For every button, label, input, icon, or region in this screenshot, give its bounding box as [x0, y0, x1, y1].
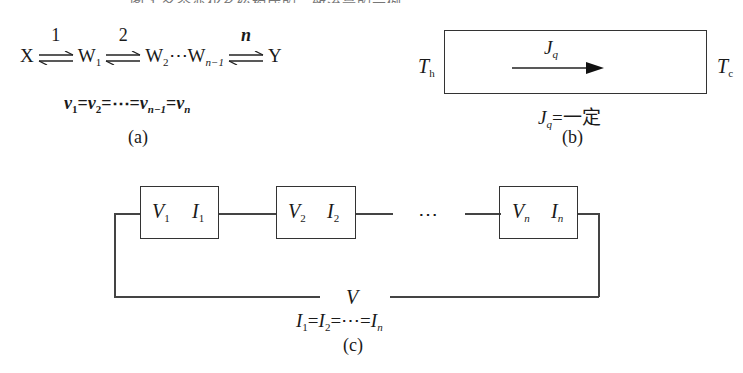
rate-equality: v1=v2=⋯=vn−1=vn — [64, 92, 190, 115]
equilibrium-arrow-2-icon: 2 — [104, 51, 142, 65]
element-2-current: I2 — [327, 200, 339, 224]
ellipsis: ⋯ — [169, 45, 188, 66]
series-ellipsis: ⋯ — [418, 202, 438, 226]
current-equality: I1=I2=⋯=In — [296, 309, 383, 333]
species-w1: W1 — [78, 45, 101, 66]
wire-dots-n — [465, 213, 501, 215]
caption-b: (b) — [562, 127, 583, 148]
wire-bottom-left — [114, 296, 320, 298]
wire-left-vertical — [114, 213, 116, 297]
element-n-voltage: Vn — [512, 200, 530, 224]
wire-right-stub — [577, 213, 599, 215]
element-1-current: I1 — [192, 200, 204, 224]
caption-a: (a) — [128, 127, 148, 148]
species-x: X — [20, 45, 34, 66]
flux-constant-condition: Jq=一定 — [538, 102, 601, 130]
wire-left-stub — [114, 213, 141, 215]
species-y: Y — [268, 45, 282, 66]
wire-1-2 — [218, 213, 277, 215]
species-wn-1: Wn−1 — [188, 45, 224, 66]
species-w2: W2 — [145, 45, 168, 66]
heat-flow-arrow-icon — [512, 61, 608, 75]
wire-bottom-right — [390, 296, 599, 298]
caption-c: (c) — [343, 335, 363, 356]
wire-right-vertical — [598, 213, 600, 297]
element-1-voltage: V1 — [152, 200, 170, 224]
flux-label: Jq — [544, 37, 558, 60]
element-2-voltage: V2 — [288, 200, 306, 224]
figure-title-truncated: 图 1 各个变化系统构成的一致流量的示例 — [130, 0, 600, 3]
reaction-chain: X1W12W2⋯Wn−1nY — [20, 44, 282, 68]
label-t-hot: Th — [418, 55, 435, 79]
equilibrium-arrow-1-icon: 1 — [37, 51, 75, 65]
total-voltage-label: V — [346, 286, 358, 309]
wire-2-dots — [355, 213, 393, 215]
label-t-cold: Tc — [717, 55, 733, 79]
circuit-element-n — [499, 186, 578, 239]
equilibrium-arrow-n-icon: n — [227, 51, 265, 65]
element-n-current: In — [551, 200, 563, 224]
